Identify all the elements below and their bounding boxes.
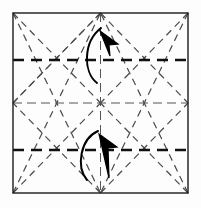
crease-pattern-canvas	[0, 0, 201, 208]
origami-crease-diagram	[0, 0, 201, 208]
